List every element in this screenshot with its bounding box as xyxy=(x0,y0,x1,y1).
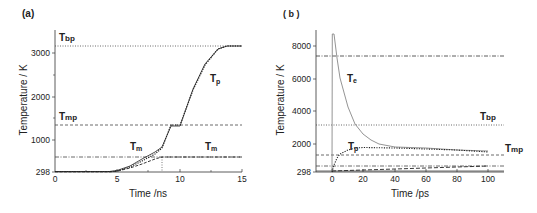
panel-b-te-label: Te xyxy=(347,73,357,84)
panel-b-label: ( b ) xyxy=(283,9,300,19)
panel-a-xtick-0: 0 xyxy=(53,174,58,184)
panel-a-xtick-15: 15 xyxy=(237,174,247,184)
panel-a-tp-solid-curve xyxy=(55,46,242,172)
panel-b-tbp-label: Tbp xyxy=(480,111,496,122)
panel-a-y-label: Temperature / K xyxy=(18,64,29,135)
panel-a-tmp-label: Tmp xyxy=(59,111,77,122)
panel-b-xtick-100: 100 xyxy=(481,174,495,184)
panel-b-ytick-6000: 6000 xyxy=(292,74,311,84)
panel-b-tm-curve xyxy=(332,166,488,171)
panel-a-ytick-1000: 1000 xyxy=(31,135,50,145)
panel-a-annotations: Tbp Tmp Tm Tm Tp xyxy=(59,32,220,152)
panel-a-tm-label-left: Tm xyxy=(130,141,142,152)
panel-b-tp-label: Tp xyxy=(348,141,358,153)
panel-b-ytick-4000: 4000 xyxy=(292,106,311,116)
panel-a-tp-label: Tp xyxy=(210,73,220,86)
panel-b-xtick-20: 20 xyxy=(358,174,368,184)
panel-a-x-label: Time /ns xyxy=(129,188,167,199)
panel-a-tp-dotted-curve xyxy=(55,46,242,172)
panel-b-annotations: Te Tbp Tp Tmp xyxy=(347,73,523,154)
panel-b-ytick-2000: 2000 xyxy=(292,139,311,149)
panel-a-tm-dashed-curve xyxy=(55,157,242,172)
panel-b-ytick-8000: 8000 xyxy=(292,41,311,51)
panel-b-x-label: Time /ps xyxy=(391,188,429,199)
figure: (a) 3000 2000 1000 298 0 5 10 xyxy=(0,0,537,213)
panel-b-ytick-298: 298 xyxy=(297,167,311,177)
panel-a-tbp-label: Tbp xyxy=(59,32,75,43)
panel-a-y-ticks: 3000 2000 1000 298 xyxy=(31,48,55,177)
panel-a-label: (a) xyxy=(22,8,34,19)
panel-b-y-label: Temperature / K xyxy=(275,64,286,135)
panel-a-tm-label-right: Tm xyxy=(205,141,217,152)
panel-a-ytick-2000: 2000 xyxy=(31,92,50,102)
panel-a-ytick-298: 298 xyxy=(36,167,50,177)
panel-b-xtick-60: 60 xyxy=(421,174,431,184)
panel-b-xtick-80: 80 xyxy=(452,174,462,184)
panel-b: ( b ) 8000 6000 4000 2000 298 0 20 xyxy=(275,9,523,199)
panel-b-tmp-label: Tmp xyxy=(505,143,523,154)
panel-a-ytick-3000: 3000 xyxy=(31,48,50,58)
panel-b-xtick-40: 40 xyxy=(390,174,400,184)
panel-b-xtick-0: 0 xyxy=(330,174,335,184)
panel-a: (a) 3000 2000 1000 298 0 5 10 xyxy=(18,8,247,199)
panel-b-y-ticks: 8000 6000 4000 2000 298 xyxy=(292,41,316,177)
panel-a-xtick-10: 10 xyxy=(175,174,185,184)
panel-a-xtick-5: 5 xyxy=(115,174,120,184)
